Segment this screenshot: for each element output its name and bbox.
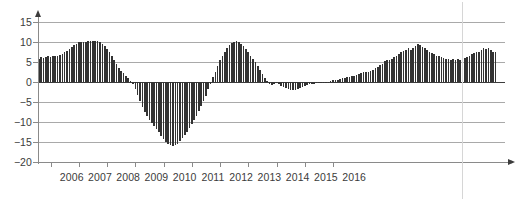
bar bbox=[62, 54, 64, 82]
bar bbox=[485, 49, 487, 82]
bar bbox=[344, 78, 346, 82]
bar bbox=[412, 48, 414, 82]
bar bbox=[264, 78, 266, 82]
bar bbox=[278, 82, 280, 84]
x-axis-tick bbox=[51, 162, 52, 167]
bar bbox=[97, 41, 99, 82]
bar bbox=[222, 56, 224, 82]
bar bbox=[285, 82, 287, 88]
bar bbox=[109, 52, 111, 82]
bar bbox=[144, 82, 146, 112]
bar bbox=[339, 79, 341, 82]
bar bbox=[384, 61, 386, 82]
bar bbox=[200, 82, 202, 106]
bar bbox=[426, 50, 428, 82]
bar bbox=[492, 52, 494, 82]
y-axis-tick-label: 10 bbox=[0, 37, 32, 48]
bar bbox=[54, 56, 56, 82]
bar bbox=[52, 56, 54, 82]
y-axis-tick-label: 15 bbox=[0, 17, 32, 28]
bar bbox=[104, 46, 106, 82]
bar bbox=[175, 82, 177, 145]
bar bbox=[116, 64, 118, 82]
bar bbox=[94, 41, 96, 82]
bar bbox=[405, 50, 407, 82]
x-axis-tick bbox=[220, 162, 221, 167]
bar bbox=[400, 52, 402, 82]
bar bbox=[476, 52, 478, 82]
bar bbox=[153, 82, 155, 126]
bar bbox=[495, 52, 497, 82]
bar bbox=[459, 60, 461, 82]
bar bbox=[429, 52, 431, 82]
bar bbox=[102, 44, 104, 82]
bar bbox=[313, 82, 315, 84]
bar bbox=[351, 76, 353, 82]
bar bbox=[386, 60, 388, 82]
bar bbox=[71, 47, 73, 82]
x-axis-tick bbox=[107, 162, 108, 167]
x-axis-tick bbox=[164, 162, 165, 167]
bar bbox=[490, 50, 492, 82]
bar bbox=[273, 82, 275, 84]
bar bbox=[257, 66, 259, 82]
bar bbox=[40, 57, 42, 82]
bar bbox=[43, 58, 45, 82]
y-axis-arrow-icon bbox=[35, 10, 41, 17]
x-axis-tick bbox=[333, 162, 334, 167]
y-axis-tick bbox=[33, 102, 39, 103]
bar bbox=[236, 41, 238, 82]
bar bbox=[417, 44, 419, 82]
bar bbox=[158, 82, 160, 132]
bar bbox=[325, 82, 327, 83]
bar bbox=[47, 56, 49, 82]
y-axis-tick bbox=[33, 22, 39, 23]
bar bbox=[337, 80, 339, 82]
bar bbox=[219, 60, 221, 82]
y-axis-labels: 151050−5−10−15−20 bbox=[0, 0, 32, 201]
bar bbox=[120, 71, 122, 82]
bar bbox=[113, 60, 115, 82]
bar bbox=[226, 48, 228, 82]
y-axis-tick bbox=[33, 142, 39, 143]
bar bbox=[441, 57, 443, 82]
y-axis-tick bbox=[33, 62, 39, 63]
bar bbox=[353, 76, 355, 82]
bar bbox=[130, 81, 132, 82]
bar bbox=[198, 82, 200, 111]
bar bbox=[259, 70, 261, 82]
bar bbox=[297, 82, 299, 89]
bar bbox=[433, 54, 435, 82]
bar bbox=[245, 49, 247, 82]
x-axis-tick-label: 2016 bbox=[331, 172, 377, 183]
bar bbox=[481, 50, 483, 82]
bar bbox=[422, 47, 424, 82]
bar bbox=[323, 82, 325, 83]
bar bbox=[445, 59, 447, 82]
bar bbox=[156, 82, 158, 129]
bar bbox=[212, 77, 214, 82]
bar bbox=[276, 82, 278, 83]
bar bbox=[135, 82, 137, 89]
bar bbox=[457, 59, 459, 82]
bar bbox=[448, 59, 450, 82]
bar bbox=[466, 57, 468, 82]
bar bbox=[238, 42, 240, 82]
bar bbox=[184, 82, 186, 135]
y-axis-tick bbox=[33, 162, 39, 163]
x-axis-tick bbox=[135, 162, 136, 167]
bar bbox=[127, 78, 129, 82]
bar bbox=[57, 56, 59, 82]
bar bbox=[229, 45, 231, 82]
bar bbox=[59, 55, 61, 82]
bar bbox=[318, 82, 320, 83]
bar bbox=[137, 82, 139, 95]
bar bbox=[142, 82, 144, 107]
bar bbox=[424, 48, 426, 82]
bar bbox=[410, 50, 412, 82]
bar bbox=[252, 59, 254, 82]
bar bbox=[224, 52, 226, 82]
bar bbox=[391, 59, 393, 82]
bar bbox=[280, 82, 282, 86]
bar bbox=[139, 82, 141, 101]
